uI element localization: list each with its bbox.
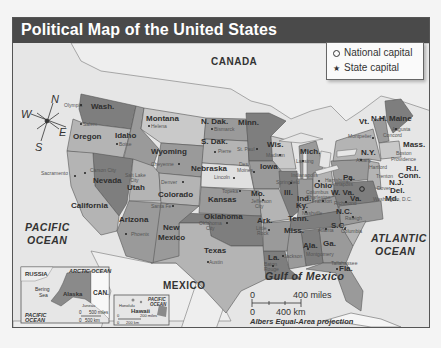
compass-e: E	[59, 126, 67, 138]
svg-text:Sea: Sea	[39, 292, 48, 298]
svg-text:Annapolis: Annapolis	[331, 181, 353, 187]
svg-text:Boise: Boise	[119, 141, 132, 147]
svg-text:Moines: Moines	[237, 167, 254, 173]
svg-text:Mexico: Mexico	[158, 233, 185, 242]
svg-text:500 miles: 500 miles	[89, 310, 109, 315]
svg-text:Helena: Helena	[151, 123, 167, 129]
svg-text:Washington, D.C.: Washington, D.C.	[373, 196, 412, 202]
svg-text:Ill.: Ill.	[284, 188, 293, 197]
svg-text:Tallahassee: Tallahassee	[331, 260, 358, 266]
svg-text:Juneau: Juneau	[82, 303, 95, 308]
svg-text:Mo.: Mo.	[251, 189, 265, 198]
svg-text:Lansing: Lansing	[296, 158, 314, 164]
svg-text:Dover: Dover	[377, 185, 391, 191]
svg-text:Olympia: Olympia	[64, 102, 83, 108]
svg-text:Madison: Madison	[266, 152, 285, 158]
compass-w: W	[21, 108, 33, 120]
svg-text:Miss.: Miss.	[284, 226, 304, 235]
svg-text:Lincoln: Lincoln	[214, 174, 230, 180]
svg-text:Concord: Concord	[383, 132, 402, 138]
svg-text:Ark.: Ark.	[257, 216, 273, 225]
svg-text:Nevada: Nevada	[93, 176, 122, 185]
svg-text:N. Dak.: N. Dak.	[201, 117, 228, 126]
scale-km: 400 km	[276, 307, 306, 317]
svg-text:Idaho: Idaho	[115, 131, 136, 140]
svg-text:Albany: Albany	[356, 157, 372, 163]
svg-text:Mass.: Mass.	[403, 140, 425, 149]
svg-text:Nashville: Nashville	[302, 210, 323, 216]
compass-s: S	[35, 141, 43, 153]
legend-row-state-capital: ★State capital	[332, 62, 399, 73]
svg-text:Maine: Maine	[389, 114, 412, 123]
svg-text:City: City	[206, 225, 215, 231]
svg-text:Cheyenne: Cheyenne	[151, 161, 174, 167]
svg-text:Phoenix: Phoenix	[131, 231, 150, 237]
label-mexico: MEXICO	[163, 280, 205, 291]
svg-text:Iowa: Iowa	[260, 162, 278, 171]
svg-text:Minn.: Minn.	[238, 118, 259, 127]
svg-text:Arizona: Arizona	[119, 215, 149, 224]
svg-text:Pierre: Pierre	[218, 148, 232, 154]
svg-text:N.Y.: N.Y.	[361, 148, 376, 157]
star-icon: ★	[332, 64, 341, 73]
svg-text:Denver: Denver	[161, 179, 177, 185]
svg-text:Oregon: Oregon	[73, 132, 102, 141]
svg-text:N.H.: N.H.	[371, 114, 387, 123]
svg-text:Sacramento: Sacramento	[41, 170, 68, 176]
svg-text:200 km: 200 km	[126, 320, 140, 325]
svg-text:ARCTIC OCEAN: ARCTIC OCEAN	[68, 268, 112, 274]
svg-text:Texas: Texas	[204, 246, 227, 255]
svg-text:Salem: Salem	[83, 121, 97, 127]
svg-text:Ala.: Ala.	[303, 241, 318, 250]
legend-row-national-capital: National capital	[332, 47, 412, 58]
svg-text:Mich.: Mich.	[300, 147, 320, 156]
map-title: Political Map of the United States	[21, 21, 277, 39]
map-frame: Political Map of the United States	[12, 17, 430, 328]
svg-text:CAN.: CAN.	[93, 289, 109, 296]
svg-text:New: New	[163, 223, 180, 232]
label-canada: CANADA	[211, 56, 257, 67]
svg-text:S. Dak.: S. Dak.	[201, 137, 228, 146]
svg-text:500 km: 500 km	[85, 318, 100, 323]
svg-text:Wash.: Wash.	[91, 102, 114, 111]
svg-text:Utah: Utah	[127, 183, 145, 192]
compass-n: N	[51, 93, 59, 105]
svg-text:Carson City: Carson City	[90, 167, 117, 173]
svg-text:Colorado: Colorado	[158, 190, 193, 199]
svg-text:Richmond: Richmond	[334, 200, 357, 206]
svg-text:OCEAN: OCEAN	[150, 302, 167, 307]
svg-text:OCEAN: OCEAN	[25, 317, 46, 323]
scale-zero-top: 0	[250, 290, 255, 300]
map-legend: National capital ★State capital	[326, 42, 424, 80]
svg-text:Rouge: Rouge	[264, 266, 279, 272]
label-atlantic-2: OCEAN	[375, 245, 415, 257]
svg-text:Austin: Austin	[209, 259, 223, 265]
ring-icon	[332, 47, 341, 58]
svg-text:Providence: Providence	[391, 156, 416, 162]
svg-text:Hartford: Hartford	[369, 164, 387, 170]
svg-text:Wyoming: Wyoming	[151, 147, 187, 156]
svg-text:Rock: Rock	[257, 230, 269, 236]
svg-text:Santa Fe: Santa Fe	[151, 203, 172, 209]
label-atlantic-1: ATLANTIC	[370, 232, 427, 244]
projection-note: Albers Equal-Area projection	[249, 317, 354, 326]
svg-text:Topeka: Topeka	[222, 188, 238, 194]
svg-text:Montgomery: Montgomery	[306, 251, 334, 257]
svg-text:Montpelier: Montpelier	[348, 133, 372, 139]
svg-text:Montana: Montana	[146, 114, 179, 123]
svg-text:St. Paul: St. Paul	[237, 146, 255, 152]
svg-text:Raleigh: Raleigh	[345, 215, 362, 221]
svg-text:Springfield: Springfield	[276, 179, 300, 185]
svg-text:Indianapolis: Indianapolis	[291, 172, 318, 178]
svg-text:City: City	[255, 203, 264, 209]
svg-text:Atlanta: Atlanta	[318, 227, 334, 233]
svg-text:City: City	[130, 177, 139, 183]
svg-text:Vt.: Vt.	[359, 117, 369, 126]
svg-text:Ky.: Ky.	[296, 201, 308, 210]
svg-text:Jackson: Jackson	[284, 253, 303, 259]
svg-text:Nebraska: Nebraska	[191, 164, 228, 173]
svg-text:200 miles: 200 miles	[140, 313, 157, 318]
svg-text:Alaska: Alaska	[63, 291, 83, 297]
svg-text:Ga.: Ga.	[323, 239, 336, 248]
scale-zero-bottom: 0	[250, 307, 255, 317]
